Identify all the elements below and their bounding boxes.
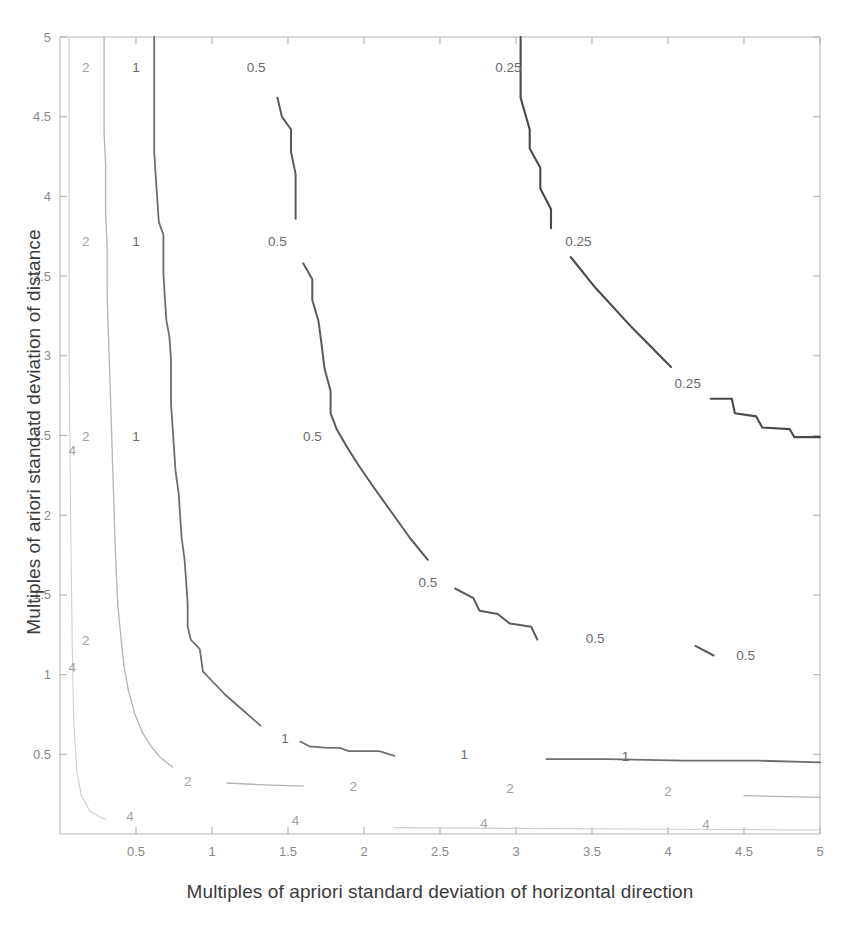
contour-label-4: 4	[292, 813, 300, 828]
y-tick-label: 5	[44, 30, 51, 45]
y-tick-label: 2	[44, 508, 51, 523]
contour-label-2: 2	[664, 784, 672, 799]
contour-line-4	[394, 828, 820, 830]
contour-line-2	[104, 37, 172, 767]
y-tick-label: 4	[44, 189, 51, 204]
contour-label-2: 2	[82, 633, 90, 648]
contour-label-0-5: 0.5	[268, 234, 287, 249]
contour-label-0-5: 0.5	[586, 631, 605, 646]
x-tick-label: 4	[664, 844, 671, 859]
y-tick-label: 4.5	[33, 109, 51, 124]
x-tick-label: 3	[512, 844, 519, 859]
contour-label-2: 2	[506, 781, 514, 796]
contour-label-0-5: 0.5	[418, 575, 437, 590]
x-tick-label: 0.5	[127, 844, 145, 859]
contour-label-0-25: 0.25	[565, 234, 591, 249]
contour-label-1: 1	[132, 60, 140, 75]
contour-line-0.25	[521, 37, 551, 228]
contour-label-1: 1	[281, 731, 289, 746]
contour-label-0-5: 0.5	[736, 648, 755, 663]
contour-label-2: 2	[82, 60, 90, 75]
contour-label-4: 4	[480, 816, 488, 831]
contour-line-2	[744, 796, 820, 798]
contour-line-0.5	[303, 263, 428, 560]
contour-line-0.5	[695, 646, 713, 656]
contour-label-1: 1	[461, 747, 469, 762]
contour-lines	[69, 37, 820, 830]
contour-label-4: 4	[68, 660, 76, 675]
contour-line-0.25	[571, 257, 671, 367]
x-tick-label: 2	[360, 844, 367, 859]
x-tick-label: 5	[816, 844, 823, 859]
y-tick-label: 0.5	[33, 747, 51, 762]
x-tick-label: 3.5	[583, 844, 601, 859]
contour-line-0.25	[711, 399, 820, 437]
contour-line-1	[300, 742, 394, 756]
contour-label-4: 4	[702, 817, 710, 832]
contour-label-0-5: 0.5	[247, 60, 266, 75]
contour-inline-labels: 210.50.25210.50.250.25210.50.50.50.52441…	[68, 60, 755, 832]
contour-line-1	[154, 37, 260, 726]
contour-label-4: 4	[126, 809, 134, 824]
x-axis-title: Multiples of apriori standard deviation …	[187, 881, 694, 902]
contour-line-1	[546, 759, 820, 762]
x-tick-label: 1	[208, 844, 215, 859]
y-axis-title: Multiples of ariori standatd deviation o…	[23, 229, 44, 634]
contour-label-0-25: 0.25	[495, 60, 521, 75]
y-tick-label: 1	[44, 667, 51, 682]
contour-label-4: 4	[68, 443, 76, 458]
contour-label-1: 1	[622, 749, 630, 764]
contour-line-0.5	[277, 98, 295, 219]
contour-label-2: 2	[82, 234, 90, 249]
contour-label-1: 1	[132, 234, 140, 249]
x-tick-label: 4.5	[735, 844, 753, 859]
contour-label-0-5: 0.5	[303, 429, 322, 444]
x-tick-label: 2.5	[431, 844, 449, 859]
contour-line-2	[227, 783, 303, 786]
y-tick-label: 3	[44, 348, 51, 363]
plot-canvas: 0.511.522.533.544.550.511.522.533.544.55…	[0, 0, 855, 925]
contour-label-2: 2	[82, 429, 90, 444]
contour-label-2: 2	[350, 779, 358, 794]
contour-label-2: 2	[184, 774, 192, 789]
contour-line-0.5	[455, 589, 537, 640]
x-tick-label: 1.5	[279, 844, 297, 859]
contour-plot-figure: 0.511.522.533.544.550.511.522.533.544.55…	[0, 0, 855, 925]
contour-label-1: 1	[132, 429, 140, 444]
contour-label-0-25: 0.25	[675, 376, 701, 391]
axis-tick-labels: 0.511.522.533.544.550.511.522.533.544.55	[33, 30, 824, 860]
